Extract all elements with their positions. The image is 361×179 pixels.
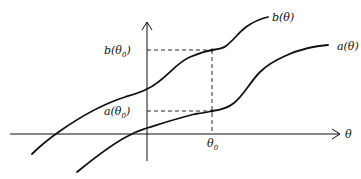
b-theta0-point xyxy=(210,48,213,51)
b-theta0-label: b(θ0) xyxy=(104,44,131,59)
diagram-canvas: θ b(θ) a(θ) b(θ0) a(θ0) θ0 xyxy=(0,0,361,179)
curve-b xyxy=(32,17,268,154)
a-theta0-label: a(θ0) xyxy=(104,105,130,120)
a-theta0-point xyxy=(210,109,213,112)
x-axis-label: θ xyxy=(345,128,352,141)
curve-b-label: b(θ) xyxy=(272,11,294,24)
theta0-tick-label: θ0 xyxy=(207,137,219,152)
curve-a-label: a(θ) xyxy=(337,40,359,53)
